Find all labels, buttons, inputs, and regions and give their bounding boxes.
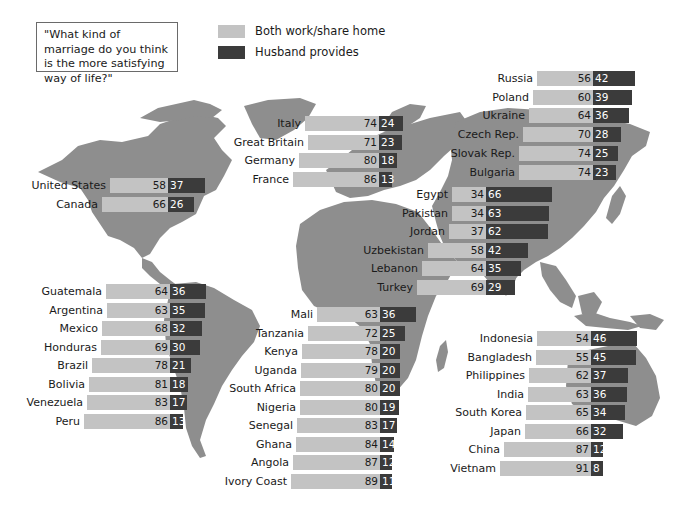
country-label: Jordan [410, 224, 445, 239]
value-husband-provides: 66 [488, 187, 501, 202]
country-label: India [497, 387, 524, 402]
country-label: Ukraine [483, 108, 525, 123]
bar-row: Vietnam918 [0, 461, 696, 476]
bar-row: India6336 [0, 387, 696, 402]
bar-segment-husband-provides: 39 [593, 90, 632, 105]
bar-segment-both-work: 54 [537, 331, 591, 346]
bar-segment-both-work: 66 [525, 424, 591, 439]
survey-question-box: "What kind of marriage do you think is t… [36, 22, 178, 72]
value-husband-provides: 11 [382, 474, 395, 489]
country-label: South Korea [455, 405, 522, 420]
value-both-work: 64 [155, 284, 168, 299]
bar-segment-both-work: 64 [422, 261, 486, 276]
value-husband-provides: 35 [488, 261, 501, 276]
value-both-work: 37 [471, 224, 484, 239]
value-both-work: 63 [576, 387, 589, 402]
bar-row: Jordan3762 [0, 224, 696, 239]
bar-row: Japan6632 [0, 424, 696, 439]
bar-row: Egypt3466 [0, 187, 696, 202]
bar-segment-both-work: 87 [504, 442, 591, 457]
bar-segment-both-work: 58 [428, 243, 486, 258]
value-husband-provides: 23 [595, 165, 608, 180]
bar-row: Mali6336 [0, 307, 696, 322]
value-both-work: 87 [576, 442, 589, 457]
value-both-work: 74 [578, 146, 591, 161]
bar-row: Bangladesh5545 [0, 350, 696, 365]
country-label: Poland [492, 90, 529, 105]
bar-segment-husband-provides: 28 [593, 127, 621, 142]
bar-segment-husband-provides: 63 [486, 206, 549, 221]
legend-swatch-light [218, 25, 245, 38]
bar-segment-husband-provides: 23 [593, 165, 616, 180]
bar-row: Guatemala6436 [0, 284, 696, 299]
value-both-work: 55 [576, 350, 589, 365]
bar-segment-both-work: 55 [536, 350, 591, 365]
legend-swatch-dark [218, 46, 245, 59]
bar-segment-both-work: 65 [526, 405, 591, 420]
value-both-work: 91 [576, 461, 589, 476]
bar-segment-husband-provides: 12 [591, 442, 603, 457]
value-both-work: 34 [471, 206, 484, 221]
value-both-work: 74 [578, 165, 591, 180]
value-husband-provides: 28 [595, 127, 608, 142]
bar-segment-husband-provides: 62 [486, 224, 548, 239]
bar-segment-husband-provides: 37 [591, 368, 628, 383]
value-husband-provides: 42 [595, 71, 608, 86]
legend-label: Both work/share home [255, 24, 385, 38]
country-label: Czech Rep. [458, 127, 519, 142]
country-label: Vietnam [450, 461, 496, 476]
bar-row: Slovak Rep.7425 [0, 146, 696, 161]
bar-segment-both-work: 62 [529, 368, 591, 383]
value-husband-provides: 36 [593, 387, 606, 402]
legend-label: Husband provides [255, 45, 359, 59]
country-label: Lebanon [371, 261, 418, 276]
bar-segment-husband-provides: 25 [593, 146, 618, 161]
value-husband-provides: 36 [595, 108, 608, 123]
country-label: Ivory Coast [225, 474, 287, 489]
value-both-work: 63 [365, 307, 378, 322]
bar-row: Indonesia5446 [0, 331, 696, 346]
value-both-work: 64 [578, 108, 591, 123]
bar-row: China8712 [0, 442, 696, 457]
country-label: China [469, 442, 500, 457]
bar-segment-husband-provides: 8 [591, 461, 603, 476]
country-label: Guatemala [41, 284, 102, 299]
country-label: Bangladesh [468, 350, 533, 365]
value-both-work: 64 [471, 261, 484, 276]
country-label: Indonesia [480, 331, 533, 346]
bar-segment-husband-provides: 45 [591, 350, 636, 365]
value-husband-provides: 36 [172, 284, 185, 299]
value-husband-provides: 45 [593, 350, 606, 365]
value-husband-provides: 32 [593, 424, 606, 439]
bar-segment-both-work: 37 [449, 224, 486, 239]
country-label: Bulgaria [469, 165, 515, 180]
value-both-work: 66 [576, 424, 589, 439]
value-husband-provides: 25 [595, 146, 608, 161]
bar-row: Philippines6237 [0, 368, 696, 383]
value-husband-provides: 36 [382, 307, 395, 322]
value-both-work: 89 [365, 474, 378, 489]
bar-segment-husband-provides: 34 [591, 405, 625, 420]
value-both-work: 34 [471, 187, 484, 202]
bar-segment-both-work: 60 [533, 90, 593, 105]
bar-segment-husband-provides: 36 [380, 307, 416, 322]
bar-segment-both-work: 34 [452, 206, 486, 221]
value-both-work: 54 [576, 331, 589, 346]
bar-segment-husband-provides: 11 [380, 474, 392, 489]
value-husband-provides: 42 [488, 243, 501, 258]
bar-segment-husband-provides: 36 [170, 284, 206, 299]
value-both-work: 70 [578, 127, 591, 142]
bar-row: Ukraine6436 [0, 108, 696, 123]
bar-row: South Korea6534 [0, 405, 696, 420]
legend: Both work/share home Husband provides [218, 21, 385, 63]
bar-segment-husband-provides: 36 [593, 108, 629, 123]
bar-segment-both-work: 70 [523, 127, 593, 142]
bar-segment-both-work: 89 [291, 474, 380, 489]
value-husband-provides: 12 [593, 442, 606, 457]
country-label: Russia [498, 71, 533, 86]
country-label: Uzbekistan [363, 243, 424, 258]
bar-row: Bulgaria7423 [0, 165, 696, 180]
bar-segment-husband-provides: 36 [591, 387, 627, 402]
bar-row: Czech Rep.7028 [0, 127, 696, 142]
value-both-work: 58 [471, 243, 484, 258]
